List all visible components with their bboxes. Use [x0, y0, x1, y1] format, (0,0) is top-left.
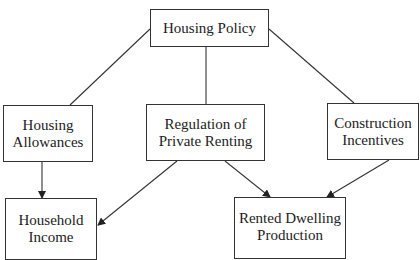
- edge-policy-allowances: [70, 29, 150, 105]
- node-regulation-private-renting: Regulation of Private Renting: [146, 104, 265, 161]
- arrow-regulation-income: [98, 161, 177, 225]
- node-rented-dwelling-production: Rented Dwelling Production: [234, 197, 346, 259]
- node-housing-allowances: Housing Allowances: [3, 105, 93, 162]
- node-housing-policy: Housing Policy: [150, 9, 269, 47]
- node-construction-incentives: Construction Incentives: [327, 103, 419, 160]
- node-household-income: Household Income: [5, 198, 97, 260]
- arrow-construction-dwelling: [327, 160, 389, 197]
- arrow-regulation-dwelling: [225, 161, 270, 197]
- edge-policy-construction: [269, 29, 354, 103]
